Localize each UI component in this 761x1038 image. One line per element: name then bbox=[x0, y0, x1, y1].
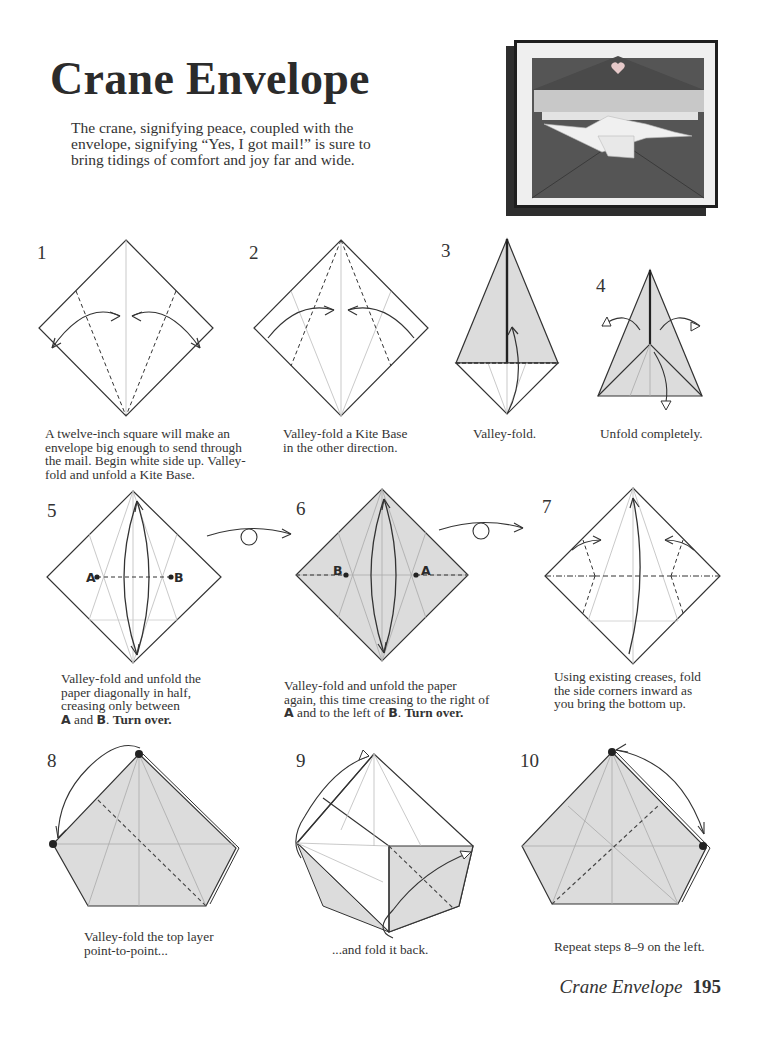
intro-text: The crane, signifying peace, coupled wit… bbox=[71, 120, 401, 168]
step-caption: Valley-fold the top layer point-to-point… bbox=[84, 930, 214, 957]
step-caption: ...and fold it back. bbox=[332, 943, 428, 957]
arrow-head-icon bbox=[359, 750, 369, 760]
step-caption: Valley-fold. bbox=[473, 427, 536, 441]
finished-envelope-photo bbox=[506, 40, 718, 216]
step-caption: Repeat steps 8–9 on the left. bbox=[554, 940, 705, 954]
diagram-step-10 bbox=[520, 748, 716, 910]
diagram-step-9 bbox=[293, 750, 477, 936]
diagram-step-5 bbox=[45, 489, 225, 667]
step-caption: Valley-fold and unfold the paper again, … bbox=[284, 679, 504, 720]
diagram-step-7 bbox=[543, 486, 723, 666]
page-title: Crane Envelope bbox=[50, 52, 370, 105]
turn-over-symbol-icon bbox=[437, 514, 529, 544]
step-caption: A twelve-inch square will make an envelo… bbox=[45, 427, 255, 481]
point-label-b: B bbox=[174, 570, 184, 585]
step-caption: Valley-fold a Kite Base in the other dir… bbox=[283, 427, 418, 454]
diagram-step-8 bbox=[48, 748, 238, 910]
point-label-a: A bbox=[86, 570, 96, 585]
page-number: 195 bbox=[693, 976, 722, 997]
footer-title: Crane Envelope bbox=[560, 976, 683, 997]
diagram-step-4 bbox=[596, 268, 708, 418]
step-number: 3 bbox=[441, 240, 451, 262]
diagram-step-3 bbox=[455, 237, 563, 417]
step-caption: Valley-fold and unfold the paper diagona… bbox=[61, 672, 231, 726]
diagram-step-2 bbox=[252, 238, 432, 420]
step-caption: Using existing creases, fold the side co… bbox=[554, 670, 714, 711]
step-caption: Unfold completely. bbox=[600, 427, 703, 441]
arrow-head-icon bbox=[698, 822, 704, 834]
point-label-a: A bbox=[421, 563, 431, 578]
page-footer: Crane Envelope195 bbox=[560, 976, 721, 998]
diagram-step-1 bbox=[36, 238, 216, 420]
point-label-b: B bbox=[333, 563, 343, 578]
turn-over-symbol-icon bbox=[205, 520, 297, 550]
arrow-head-icon bbox=[616, 744, 628, 752]
unfold-arrow-icon bbox=[661, 401, 671, 410]
